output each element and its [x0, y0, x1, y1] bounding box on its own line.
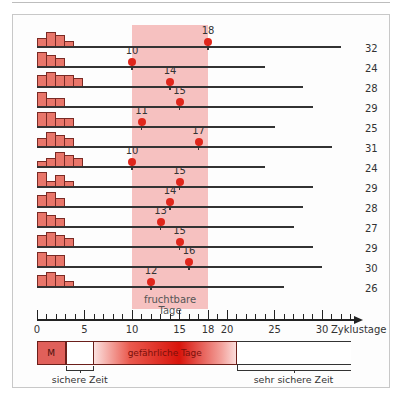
cycle-length-label: 28	[365, 83, 378, 94]
axis-tick	[189, 314, 190, 319]
ovulation-day-label: 13	[151, 205, 171, 216]
cycle-length-label: 29	[365, 243, 378, 254]
ovulation-pin-icon	[185, 258, 193, 266]
cycle-length-label: 30	[365, 263, 378, 274]
axis-tick-label: 18	[198, 324, 218, 335]
ovulation-day-label: 16	[179, 245, 199, 256]
axis-tick-label: 20	[217, 324, 237, 335]
cycle-length-label: 29	[365, 183, 378, 194]
axis-tick	[141, 314, 142, 319]
cycle-line	[37, 126, 275, 128]
axis-tick	[75, 314, 76, 319]
fertile-window-label: fruchtbare Tage	[132, 294, 208, 316]
cycle-line	[37, 246, 313, 248]
axis-tick	[37, 310, 38, 319]
axis-tick-label: 25	[265, 324, 285, 335]
ovulation-day-label: 15	[170, 225, 190, 236]
cycle-length-label: 32	[365, 43, 378, 54]
ovulation-pin-icon	[195, 138, 203, 146]
cycle-line	[37, 146, 332, 148]
ovulation-day-label: 18	[198, 25, 218, 36]
axis-tick	[198, 314, 199, 319]
ovulation-pin-icon	[138, 118, 146, 126]
ovulation-day-label: 10	[122, 145, 142, 156]
axis-tick	[284, 314, 285, 319]
bracket-tick	[237, 365, 238, 371]
cycle-length-label: 27	[365, 223, 378, 234]
cycle-line	[37, 106, 313, 108]
cycle-length-label: 24	[365, 63, 378, 74]
axis-tick	[331, 314, 332, 319]
phase-segment: gefährliche Tage	[94, 341, 237, 365]
bracket-tick	[80, 370, 81, 373]
axis-tick-label: 10	[122, 324, 142, 335]
axis-tick-label: 5	[75, 324, 95, 335]
cycle-length-label: 25	[365, 123, 378, 134]
phase-segment: M	[37, 341, 66, 365]
axis-tick	[303, 314, 304, 319]
axis-tick-label: 30	[312, 324, 332, 335]
axis-tick	[113, 314, 114, 319]
axis-tick	[255, 314, 256, 319]
bracket-tick	[294, 370, 295, 373]
axis-tick	[350, 314, 351, 319]
safe-period-label: sichere Zeit	[41, 374, 120, 385]
ovulation-pin-icon	[157, 218, 165, 226]
axis-tick	[312, 314, 313, 319]
axis-tick	[179, 310, 180, 319]
phase-segment	[237, 341, 351, 365]
axis-tick	[170, 314, 171, 319]
axis-tick	[246, 314, 247, 319]
axis-tick	[217, 314, 218, 319]
ovulation-day-label: 12	[141, 265, 161, 276]
ovulation-day-label: 15	[170, 165, 190, 176]
axis-tick	[94, 314, 95, 319]
phase-label: M	[38, 342, 65, 364]
cycle-line	[37, 266, 322, 268]
ovulation-day-label: 17	[189, 125, 209, 136]
axis-tick	[122, 314, 123, 319]
ovulation-day-label: 14	[160, 65, 180, 76]
axis-tick	[65, 314, 66, 319]
axis-tick	[322, 310, 323, 319]
axis-tick	[293, 314, 294, 319]
ovulation-pin-icon	[147, 278, 155, 286]
axis-tick	[132, 310, 133, 319]
axis-tick	[341, 314, 342, 319]
ovulation-day-label: 14	[160, 185, 180, 196]
cycle-line	[37, 286, 284, 288]
axis-tick	[227, 310, 228, 319]
very-safe-period-label: sehr sichere Zeit	[237, 374, 351, 385]
ovulation-pin-icon	[204, 38, 212, 46]
cycle-line	[37, 46, 341, 48]
phase-label: gefährliche Tage	[94, 342, 236, 364]
axis-tick	[265, 314, 266, 319]
axis-tick	[84, 310, 85, 319]
axis-tick	[208, 310, 209, 319]
axis-tick-label: 0	[27, 324, 47, 335]
axis-line	[37, 319, 357, 321]
ovulation-day-label: 15	[170, 85, 190, 96]
top-rule	[12, 2, 390, 3]
axis-tick-label: 15	[170, 324, 190, 335]
axis-tick	[56, 314, 57, 319]
axis-tick	[46, 314, 47, 319]
cycle-line	[37, 226, 294, 228]
axis-tick	[236, 314, 237, 319]
cycle-line	[37, 166, 265, 168]
ovulation-pin-icon	[128, 58, 136, 66]
cycle-line	[37, 66, 265, 68]
cycle-length-label: 26	[365, 283, 378, 294]
ovulation-pin-icon	[176, 98, 184, 106]
ovulation-day-label: 11	[132, 105, 152, 116]
ovulation-day-label: 10	[122, 45, 142, 56]
cycle-length-label: 31	[365, 143, 378, 154]
cycle-length-label: 24	[365, 163, 378, 174]
phase-segment	[66, 341, 95, 365]
axis-tick	[274, 310, 275, 319]
cycle-length-label: 28	[365, 203, 378, 214]
axis-tick	[160, 314, 161, 319]
axis-tick	[151, 314, 152, 319]
cycle-length-label: 29	[365, 103, 378, 114]
axis-tick	[103, 314, 104, 319]
